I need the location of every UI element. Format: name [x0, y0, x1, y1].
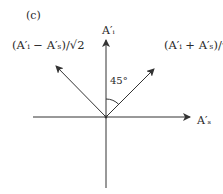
horizontal-axis-label: A′ₛ — [197, 115, 211, 126]
rotated-axes-diagram: (c) A′ᵢ A′ₛ (A′ᵢ − A′ₛ)/√2 (A′ᵢ + A′ₛ)/√… — [0, 0, 223, 194]
angle-arc — [106, 99, 119, 104]
panel-label: (c) — [26, 10, 41, 21]
difference-vector-arrow — [56, 66, 106, 117]
vertical-axis-label: A′ᵢ — [102, 25, 115, 36]
angle-label: 45° — [110, 76, 128, 86]
origin-point — [105, 116, 108, 119]
difference-vector-label: (A′ᵢ − A′ₛ)/√2 — [12, 40, 84, 52]
sum-vector-label: (A′ᵢ + A′ₛ)/√2 — [164, 40, 223, 52]
